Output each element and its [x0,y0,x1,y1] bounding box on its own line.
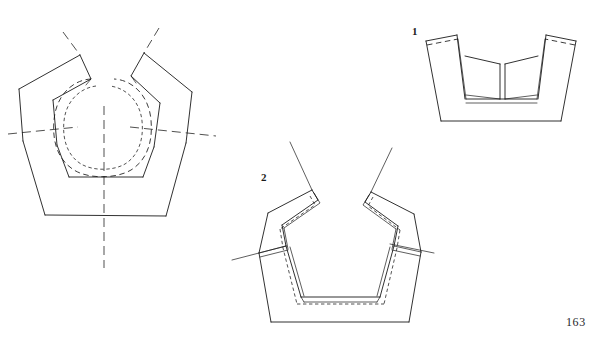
fig2-skirt-right [409,252,421,322]
fig1-inner-right-slope-lower [505,95,537,99]
centre-line-right-axis [130,127,216,136]
figure-plan-view [8,28,216,268]
centre-line-left-axis [8,127,78,134]
fig2-hidden-left-edge [280,229,297,304]
trough-body-outline [23,141,186,216]
fig1-right-end-panel [537,35,575,99]
fig1-left-end-panel [427,35,466,99]
fig2-left-joint-stroke-b [260,250,288,257]
drawing-plate: .ln { fill:none; stroke:#1a1a1a; stroke-… [0,0,604,345]
fig2-left-wing-rim-b [284,193,320,228]
body-right-side [166,143,186,216]
fig1-top-right-rim [546,35,576,41]
centre-line-upper-right-axis [144,28,159,53]
right-wing-edge-top [144,53,192,92]
body-left-side [23,141,45,215]
fig1-inner-right-top [505,56,538,64]
fig2-left-wing-outer-edge [259,213,268,253]
fig1-inner-panels [465,56,538,103]
fig2-left-wing-rim-a [282,190,318,225]
body-bottom-edge [45,215,166,216]
fig2-right-wing-outer-edge [414,214,421,252]
right-wing-edge-inner [131,53,160,103]
fig1-left-panel-inner-edge [457,35,465,99]
figure-2-perspective [232,142,434,322]
left-wing-edge-top [19,55,80,89]
fig2-left-joint-stroke-a [259,246,286,253]
right-wing-edge-outer [186,92,192,143]
hidden-contour-inner-u [64,86,143,169]
centre-line-upper-left-axis [63,32,80,55]
fig2-axis-upper-left [290,142,312,190]
fig2-body-skirt [259,252,421,322]
fig2-skirt-left [259,253,271,322]
fig1-inner-left-top [465,56,500,64]
fig1-left-panel-second-edge [458,39,466,99]
fig2-right-wing-rim-hidden [368,197,400,230]
fig1-left-wall-outer [426,41,441,121]
fig2-cavity-left-wall-second [290,247,304,296]
left-wing-edge-outer [19,89,23,141]
fig1-right-panel-second-edge [537,39,545,99]
right-wing-fold-line [154,103,160,147]
left-wing-edge-inner [53,55,91,100]
fig1-outer-body [426,35,576,121]
fig2-axis-lines [232,142,434,260]
technical-drawing-canvas: .ln { fill:none; stroke:#1a1a1a; stroke-… [0,0,604,345]
body-inner-left [57,145,69,177]
fig1-top-left-rim [426,35,457,41]
figure-1-number-label: 1 [412,26,418,37]
fig2-hidden-right-edge [384,230,400,304]
fig2-hidden-cavity-outline [280,229,400,304]
right-wing-outline [131,53,192,147]
fig2-cavity-floor-right-return [377,297,380,302]
fig1-right-panel-inner-edge [538,35,546,99]
body-inner-right [143,147,154,177]
fig2-left-wing [259,190,320,253]
fig2-left-wing-rim-hidden [280,196,315,229]
page-number: 163 [566,316,586,328]
fig2-axis-upper-right [371,148,392,192]
fig1-right-wall-outer [561,41,576,121]
figure-1-elevation [426,35,576,121]
fig2-cavity-right-wall-second [377,247,390,296]
figure-2-number-label: 2 [261,172,267,183]
fig1-inner-left-slope-lower [466,95,500,99]
fig2-left-wing-top-edge [268,190,312,213]
fig2-right-wing [363,192,421,252]
fig2-cavity-floor-left-return [301,297,304,302]
wing-root-details [86,76,136,85]
fig2-inner-cavity [286,246,394,302]
